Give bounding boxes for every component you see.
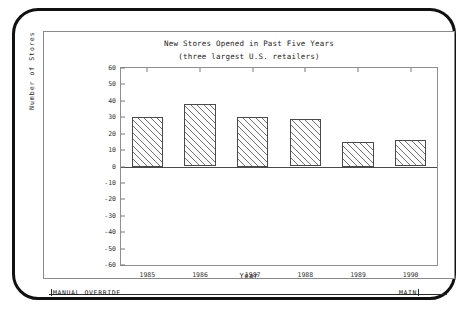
x-tick-mark [200,68,201,72]
y-tick-label: 20 [108,130,121,138]
bar-1985 [132,117,164,166]
bar-1990 [395,140,427,166]
y-tick-mark [121,199,125,200]
screen: New Stores Opened in Past Five Years (th… [0,0,470,316]
x-tick-mark [147,68,148,72]
y-tick-label: -60 [104,261,121,269]
y-tick-label: -10 [104,179,121,187]
y-tick-mark [121,133,125,134]
y-tick-mark [121,150,125,151]
y-tick-mark [121,117,125,118]
crt-bezel: New Stores Opened in Past Five Years (th… [12,8,456,300]
y-tick-mark [121,84,125,85]
status-left-tick [51,289,52,296]
bar-1987 [237,117,269,166]
y-tick-label: 10 [108,146,121,154]
y-tick-mark [121,68,125,69]
bar-1988 [290,119,322,167]
main-label[interactable]: MAIN [399,289,417,297]
y-tick-label: 30 [108,113,121,121]
y-tick-mark [121,100,125,101]
y-tick-mark [121,182,125,183]
y-axis-label: Number of Stores [28,0,36,110]
bar-1986 [184,104,216,166]
y-tick-label: 60 [108,64,121,72]
x-tick-mark [358,68,359,72]
x-axis-label: Year [44,272,454,280]
y-tick-label: -20 [104,195,121,203]
y-tick-label: -30 [104,212,121,220]
x-tick-mark [305,68,306,72]
zero-baseline [121,167,437,168]
manual-override-label[interactable]: MANUAL OVERRIDE [53,289,121,297]
chart-title: New Stores Opened in Past Five Years [44,39,454,48]
status-right-tick [418,289,419,296]
bar-1989 [342,142,374,167]
chart-subtitle: (three largest U.S. retailers) [44,52,454,61]
y-tick-label: -40 [104,228,121,236]
y-tick-mark [121,166,125,167]
y-tick-mark [121,248,125,249]
chart-panel: New Stores Opened in Past Five Years (th… [43,31,455,279]
y-tick-label: -50 [104,245,121,253]
y-tick-label: 0 [112,163,121,171]
y-tick-label: 50 [108,80,121,88]
plot-area: 6050403020100-10-20-30-40-50-60198519861… [120,67,438,266]
x-tick-mark [252,68,253,72]
y-tick-mark [121,232,125,233]
y-tick-label: 40 [108,97,121,105]
y-tick-mark [121,265,125,266]
y-tick-mark [121,215,125,216]
x-tick-mark [410,68,411,72]
